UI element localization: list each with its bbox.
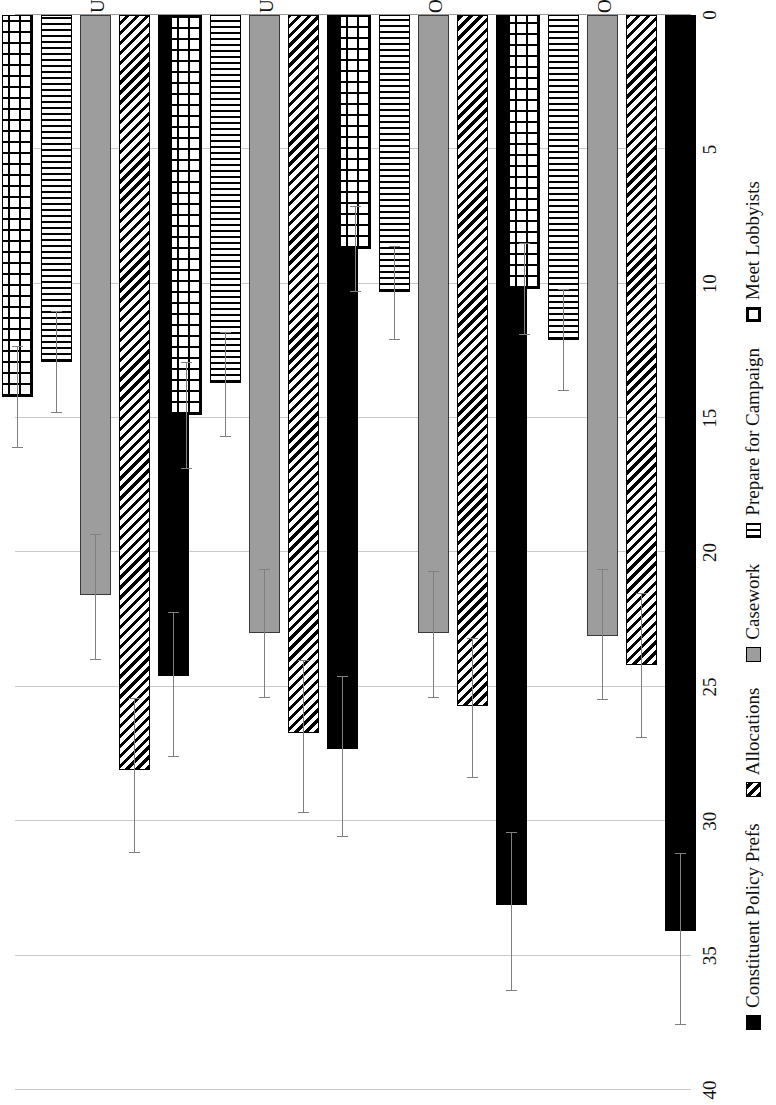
bar-solid-gray (249, 15, 280, 633)
bar-group (522, 15, 691, 1090)
category-label: Over $100k (425, 0, 447, 13)
error-bar-line (680, 854, 681, 1026)
bar-row (288, 15, 319, 1090)
error-bar (340, 206, 371, 292)
bar-crosshatch (2, 15, 33, 397)
error-bar (210, 332, 241, 437)
error-bar-cap-high (129, 698, 140, 699)
bar-row (249, 15, 280, 1090)
error-bar-line (355, 206, 356, 292)
bar-row (80, 15, 111, 1090)
bar-vertical-lines (210, 15, 241, 383)
error-bar-line (186, 362, 187, 470)
error-bar-cap-low (12, 447, 23, 448)
legend-label: Constituent Policy Prefs (742, 823, 764, 1008)
chart-page: 4035302520151050 Under $30kUnder $50kOve… (0, 0, 776, 1105)
bar-diagonal-hatch (626, 15, 657, 665)
error-bar (288, 660, 319, 813)
value-tick-label: 30 (699, 812, 721, 831)
value-tick-label: 40 (699, 1081, 721, 1100)
bar-solid-gray (587, 15, 618, 636)
error-bar-cap-low (428, 697, 439, 698)
error-bar-cap-high (597, 569, 608, 570)
error-bar (548, 289, 579, 391)
legend-item[interactable]: Allocations (742, 688, 764, 798)
error-bar (457, 639, 488, 779)
bar-row (457, 15, 488, 1090)
bar-row (171, 15, 202, 1090)
error-bar (626, 593, 657, 738)
value-tick-label: 15 (699, 409, 721, 428)
legend-swatch-icon (746, 523, 761, 538)
bar-diagonal-hatch (119, 15, 150, 770)
error-bar-cap-low (51, 412, 62, 413)
error-bar-line (264, 569, 265, 698)
value-tick-label: 10 (699, 274, 721, 293)
bar-group (184, 15, 353, 1090)
legend-label: Casework (742, 564, 764, 640)
legend-swatch-icon (746, 1015, 761, 1030)
bar-row (119, 15, 150, 1090)
legend-item[interactable]: Meet Lobbyists (742, 181, 764, 322)
bar-row (418, 15, 449, 1090)
bar-row (210, 15, 241, 1090)
error-bar-cap-high (12, 346, 23, 347)
error-bar-cap-high (259, 569, 270, 570)
error-bar (41, 311, 72, 413)
error-bar-cap-high (519, 243, 530, 244)
value-tick-label: 0 (699, 10, 721, 20)
legend-swatch-icon (746, 307, 761, 322)
chart-legend: Constituent Policy PrefsAllocationsCasew… (735, 15, 771, 1090)
value-tick-label: 20 (699, 543, 721, 562)
error-bar-line (134, 698, 135, 854)
bar-row (379, 15, 410, 1090)
plot-area (15, 15, 691, 1090)
error-bar (418, 571, 449, 697)
error-bar-line (433, 571, 434, 697)
error-bar (249, 569, 280, 698)
error-bar-line (225, 332, 226, 437)
legend-label: Meet Lobbyists (742, 181, 764, 300)
legend-swatch-icon (746, 647, 761, 662)
value-tick-label: 5 (699, 145, 721, 155)
error-bar-cap-high (51, 311, 62, 312)
error-bar (2, 346, 33, 448)
error-bar-cap-high (181, 362, 192, 363)
error-bar-cap-low (181, 468, 192, 469)
error-bar (80, 534, 111, 660)
error-bar-line (95, 534, 96, 660)
error-bar-cap-low (636, 737, 647, 738)
legend-item[interactable]: Constituent Policy Prefs (742, 823, 764, 1030)
bar-row (509, 15, 540, 1090)
legend-item[interactable]: Prepare for Campaign (742, 348, 764, 538)
bar-row (41, 15, 72, 1090)
error-bar-line (524, 243, 525, 334)
category-label: Under $30k (87, 0, 109, 13)
error-bar-cap-high (298, 660, 309, 661)
error-bar-cap-high (558, 289, 569, 290)
bar-solid-gray (80, 15, 111, 596)
value-tick-label: 35 (699, 946, 721, 965)
error-bar (587, 569, 618, 701)
error-bar-cap-low (90, 659, 101, 660)
bar-diagonal-hatch (288, 15, 319, 733)
value-tick-label: 25 (699, 677, 721, 696)
bar-crosshatch (171, 15, 202, 415)
category-axis: Under $30kUnder $50kOver $100kOver $200k (15, 0, 691, 13)
error-bar-cap-low (558, 390, 569, 391)
error-bar-cap-high (428, 571, 439, 572)
error-bar-cap-low (129, 853, 140, 854)
error-bar-cap-low (389, 339, 400, 340)
error-bar-cap-low (350, 291, 361, 292)
error-bar-cap-high (467, 639, 478, 640)
rotated-figure: 4035302520151050 Under $30kUnder $50kOve… (0, 0, 776, 1105)
legend-swatch-icon (746, 782, 761, 797)
error-bar-line (303, 660, 304, 813)
error-bar-cap-high (389, 246, 400, 247)
error-bar-line (602, 569, 603, 701)
bar-row (626, 15, 657, 1090)
category-label: Under $50k (256, 0, 278, 13)
error-bar-line (563, 289, 564, 391)
legend-item[interactable]: Casework (742, 564, 764, 662)
error-bar-cap-high (90, 534, 101, 535)
